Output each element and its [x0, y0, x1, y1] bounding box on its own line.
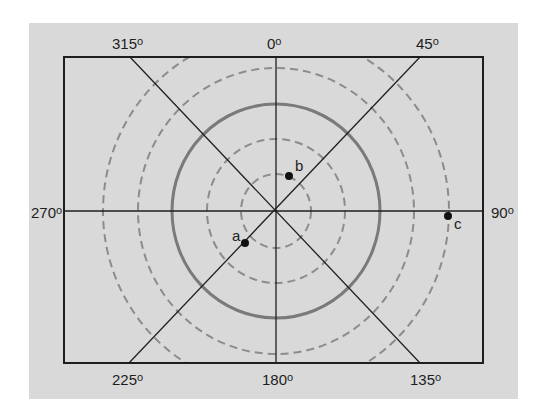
point-a-label: a [232, 227, 241, 244]
point-b-label: b [295, 157, 303, 174]
point-b [285, 172, 293, 180]
point-c [444, 212, 452, 220]
azimuth-diagram: a b c 315o 0o 45o 270o 90o 225o 180o 135… [0, 0, 551, 410]
point-a [241, 239, 249, 247]
point-c-label: c [454, 215, 462, 232]
